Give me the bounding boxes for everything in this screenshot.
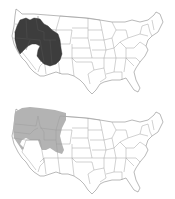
us-map-top xyxy=(0,0,175,99)
map-panel-bottom xyxy=(0,100,175,199)
us-map-bottom xyxy=(0,100,175,199)
map-panel-top xyxy=(0,0,175,99)
